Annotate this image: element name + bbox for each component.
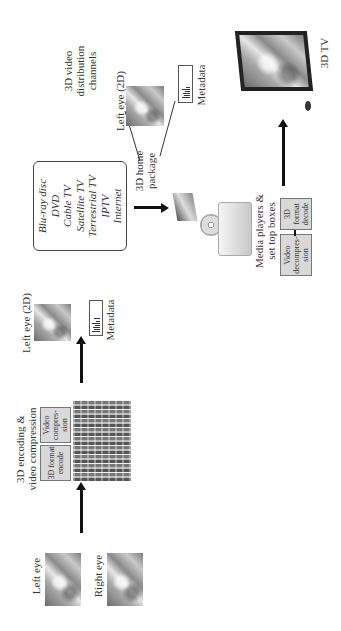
right-eye-label: Right eye [92, 546, 104, 606]
channel-item: IPTV [99, 162, 112, 250]
arrow-encoding-to-output [80, 343, 83, 383]
media-box-image [173, 193, 198, 221]
left-eye-image [45, 553, 81, 606]
channel-item: Terrestrial TV [86, 162, 99, 250]
right-eye-image [107, 553, 143, 606]
left-eye-2d-label: Left eye (2D) [20, 283, 32, 363]
package-left-eye-image [126, 86, 164, 126]
media-player-image [218, 202, 252, 256]
package-metadata-label: Metadata [195, 54, 207, 116]
package-metadata-box [178, 65, 193, 103]
media-players-label: Media players &set top boxes [253, 181, 277, 281]
channel-item: Satellite TV [74, 162, 87, 250]
encoding-title: 3D encoding &video compression [14, 384, 38, 514]
metadata-label: Metadata [104, 289, 116, 351]
left-eye-2d-image [34, 304, 71, 341]
encoding-image [73, 400, 131, 481]
channel-item: Blu-ray disc [36, 162, 49, 250]
arrow-eyes-to-encoding [80, 489, 83, 533]
3d-tv-image [235, 31, 313, 91]
3d-glasses-icon [305, 101, 311, 111]
channel-item: DVD [49, 162, 62, 250]
arrow-players-to-tv [282, 126, 285, 186]
arrow-channels-to-players [134, 206, 162, 209]
video-compression-box: Video compres-sion [40, 407, 71, 443]
distribution-channels-box: Blu-ray disc DVD Cable TV Satellite TV T… [33, 161, 127, 251]
channel-item: Cable TV [61, 162, 74, 250]
metadata-box [89, 300, 103, 336]
left-eye-label: Left eye [30, 546, 42, 606]
package-left-eye-label: Left eye (2D) [114, 61, 126, 141]
distribution-channels-caption: 3D videodistributionchannels [62, 36, 98, 106]
video-decompression-box: Video decompres-sion [280, 234, 312, 276]
diagram-3d-video-pipeline: Left eye Right eye 3D encoding &video co… [0, 0, 341, 631]
3d-tv-label: 3D TV [318, 28, 330, 78]
3d-format-encode-box: 3D format encode [40, 445, 71, 481]
3d-format-decode-box: 3D format decode [280, 198, 312, 230]
